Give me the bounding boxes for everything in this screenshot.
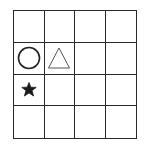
grid-cell-r3-c0 <box>14 106 45 138</box>
grid-cell-r1-c0 <box>14 43 45 75</box>
circle-icon <box>17 46 41 70</box>
puzzle-canvas <box>0 0 147 150</box>
star-icon <box>21 82 37 97</box>
grid-cell-r3-c1 <box>45 106 76 138</box>
grid-cell-r1-c1 <box>45 43 76 75</box>
grid-cell-r1-c2 <box>75 43 106 75</box>
grid-cell-r0-c2 <box>75 11 106 43</box>
grid-cell-r0-c3 <box>106 11 137 43</box>
grid-cell-r2-c0 <box>14 75 45 107</box>
grid-cell-r2-c3 <box>106 75 137 107</box>
grid-cell-r0-c1 <box>45 11 76 43</box>
grid-cell-r3-c3 <box>106 106 137 138</box>
grid-cell-r1-c3 <box>106 43 137 75</box>
triangle-icon <box>47 47 71 69</box>
grid-cell-r0-c0 <box>14 11 45 43</box>
grid-cell-r3-c2 <box>75 106 106 138</box>
grid-4x4 <box>13 10 137 139</box>
grid-cell-r2-c2 <box>75 75 106 107</box>
grid-cell-r2-c1 <box>45 75 76 107</box>
